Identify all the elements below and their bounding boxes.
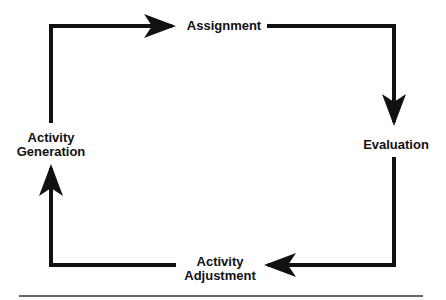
node-evaluation-label: Evaluation [356, 138, 436, 152]
node-activity-adjustment: Activity Adjustment [178, 255, 262, 283]
edge-assignment-to-evaluation [267, 26, 394, 122]
edge-generation-to-assignment [51, 26, 172, 123]
node-activity-adjustment-line2: Adjustment [178, 269, 262, 283]
edge-adjustment-to-generation [51, 168, 176, 265]
node-activity-generation-line1: Activity [5, 131, 97, 145]
node-assignment: Assignment [183, 19, 265, 33]
node-activity-generation: Activity Generation [5, 131, 97, 159]
edge-evaluation-to-adjustment [268, 157, 394, 265]
node-activity-adjustment-line1: Activity [178, 255, 262, 269]
node-assignment-label: Assignment [183, 19, 265, 33]
node-evaluation: Evaluation [356, 138, 436, 152]
node-activity-generation-line2: Generation [5, 145, 97, 159]
